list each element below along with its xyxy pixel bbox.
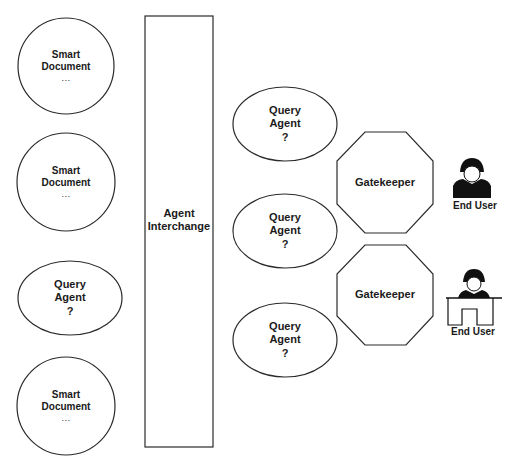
smart-document-1: Smart Document ... <box>18 18 114 114</box>
end-user-2: End User <box>438 325 508 339</box>
agent-interchange-label-line2: Interchange <box>148 220 210 233</box>
smart-document-ellipsis: ... <box>61 73 70 84</box>
query-agent-label-line3: ? <box>67 305 74 318</box>
person-icon <box>453 158 491 198</box>
smart-document-label-line1: Smart <box>52 389 80 401</box>
query-agent-label-line2: Agent <box>54 291 85 304</box>
smart-document-ellipsis: ... <box>61 189 70 200</box>
query-agent-label-line1: Query <box>269 211 301 224</box>
agent-interchange: Agent Interchange <box>145 200 213 240</box>
gatekeeper-label: Gatekeeper <box>355 288 415 301</box>
smart-document-label-line1: Smart <box>52 165 80 177</box>
query-agent-label-line3: ? <box>282 131 289 144</box>
query-agent-label-line2: Agent <box>269 117 300 130</box>
smart-document-label-line2: Document <box>42 61 91 73</box>
person-at-desk-icon <box>446 269 502 325</box>
end-user-label: End User <box>451 326 495 338</box>
agent-interchange-label-line1: Agent <box>163 207 194 220</box>
gatekeeper-1: Gatekeeper <box>337 132 433 233</box>
query-agent-right-2: Query Agent ? <box>233 194 337 268</box>
end-user-label: End User <box>453 200 497 212</box>
gatekeeper-2: Gatekeeper <box>337 245 433 345</box>
smart-document-3: Smart Document ... <box>18 357 114 455</box>
end-user-1: End User <box>442 199 508 213</box>
smart-document-label-line2: Document <box>42 177 91 189</box>
gatekeeper-label: Gatekeeper <box>355 176 415 189</box>
query-agent-right-3: Query Agent ? <box>233 303 337 377</box>
smart-document-2: Smart Document ... <box>18 133 114 231</box>
query-agent-left: Query Agent ? <box>18 261 122 335</box>
query-agent-label-line2: Agent <box>269 333 300 346</box>
query-agent-label-line1: Query <box>269 104 301 117</box>
smart-document-label-line2: Document <box>42 401 91 413</box>
query-agent-label-line1: Query <box>54 278 86 291</box>
query-agent-label-line3: ? <box>282 238 289 251</box>
smart-document-label-line1: Smart <box>52 49 80 61</box>
smart-document-ellipsis: ... <box>61 413 70 424</box>
query-agent-label-line3: ? <box>282 347 289 360</box>
query-agent-label-line1: Query <box>269 320 301 333</box>
query-agent-right-1: Query Agent ? <box>233 87 337 161</box>
query-agent-label-line2: Agent <box>269 224 300 237</box>
